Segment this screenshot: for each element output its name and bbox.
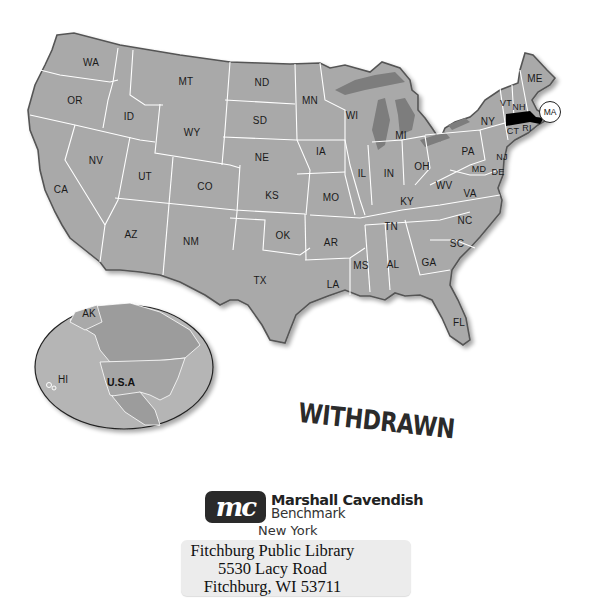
state-label-ri: RI	[522, 123, 531, 133]
inset-globe	[35, 303, 213, 429]
state-label-ks: KS	[265, 190, 279, 201]
state-label-ky: KY	[400, 196, 414, 207]
state-label-ne: NE	[255, 152, 269, 163]
state-label-mt: MT	[179, 76, 194, 87]
state-label-wv: WV	[436, 180, 453, 191]
library-street: 5530 Lacy Road	[185, 559, 360, 578]
state-label-fl: FL	[453, 317, 465, 328]
state-label-nj: NJ	[496, 152, 507, 162]
hi-label: HI	[58, 374, 68, 385]
state-label-sc: SC	[450, 238, 464, 249]
state-label-nv: NV	[89, 155, 103, 166]
state-label-va: VA	[464, 188, 477, 199]
state-label-ny: NY	[481, 116, 495, 127]
state-label-ut: UT	[138, 171, 152, 182]
state-label-ms: MS	[353, 260, 368, 271]
state-label-ga: GA	[422, 257, 437, 268]
state-label-wa: WA	[83, 57, 99, 68]
state-label-la: LA	[327, 279, 340, 290]
state-label-nc: NC	[458, 215, 473, 226]
ak-label: AK	[82, 308, 95, 319]
state-label-wi: WI	[346, 110, 359, 121]
state-label-wy: WY	[184, 127, 201, 138]
publisher-block: mc Marshall Cavendish Benchmark	[205, 491, 423, 523]
publisher-city: New York	[258, 523, 318, 538]
state-label-me: ME	[527, 73, 542, 84]
state-label-mi: MI	[395, 130, 407, 141]
state-label-ia: IA	[316, 146, 326, 157]
state-label-ct: CT	[507, 126, 519, 136]
state-label-al: AL	[387, 259, 400, 270]
state-label-az: AZ	[124, 229, 137, 240]
state-label-ok: OK	[276, 230, 291, 241]
state-label-nd: ND	[255, 77, 270, 88]
publisher-imprint: Benchmark	[271, 507, 423, 520]
state-label-ar: AR	[324, 237, 338, 248]
ma-callout-label: MA	[539, 101, 561, 123]
state-label-pa: PA	[462, 146, 475, 157]
state-label-or: OR	[67, 95, 82, 106]
state-label-de: DE	[492, 167, 505, 177]
state-label-nm: NM	[183, 236, 199, 247]
library-city-state-zip: Fitchburg, WI 53711	[185, 577, 360, 596]
state-label-ca: CA	[54, 184, 68, 195]
state-label-co: CO	[197, 181, 212, 192]
state-label-mn: MN	[302, 95, 318, 106]
state-label-tn: TN	[384, 221, 398, 232]
library-name: Fitchburg Public Library	[185, 541, 360, 560]
state-label-md: MD	[472, 164, 486, 174]
state-label-oh: OH	[414, 161, 429, 172]
state-label-id: ID	[124, 111, 134, 122]
state-label-mo: MO	[323, 192, 340, 203]
usa-label: U.S.A	[107, 376, 135, 388]
publisher-logo-icon: mc	[205, 491, 266, 523]
state-label-sd: SD	[253, 115, 267, 126]
state-label-vt: VT	[500, 98, 512, 108]
state-label-il: IL	[358, 168, 367, 179]
state-label-nh: NH	[512, 102, 525, 112]
state-label-tx: TX	[253, 275, 266, 286]
state-label-in: IN	[384, 168, 394, 179]
